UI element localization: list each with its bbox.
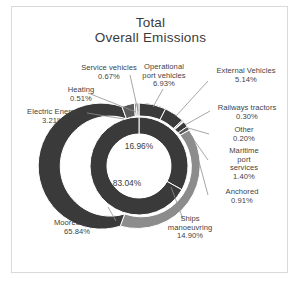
annotation-other-value: 0.20% — [215, 135, 273, 144]
annotation-electric-energy-value: 3.21% — [18, 117, 88, 126]
annotation-railways-tractors-value: 0.30% — [207, 113, 287, 122]
annotation-heating-value: 0.51% — [50, 95, 112, 104]
annotation-maritime-port-services-value: 1.40% — [215, 173, 273, 182]
annotation-railways-tractors: Railways tractors 0.30% — [207, 104, 287, 121]
annotation-other: Other 0.20% — [215, 126, 273, 143]
annotation-external-vehicles-value: 5.14% — [207, 76, 285, 85]
annotation-heating: Heating 0.51% — [50, 86, 112, 103]
annotation-operational-port-vehicles-value: 6.93% — [133, 80, 195, 89]
inner-label-maritime: 83.04% — [97, 178, 157, 188]
annotation-anchored: Anchored 0.91% — [211, 188, 273, 205]
annotation-ships-manoeuvring: Ships manoeuvring 14.90% — [157, 215, 223, 241]
annotation-moored-ships: Moored ships 65.84% — [38, 219, 116, 236]
chart-frame: Total Overall Emissions — [11, 6, 288, 273]
annotation-ships-manoeuvring-value: 14.90% — [157, 232, 223, 241]
annotation-anchored-value: 0.91% — [211, 197, 273, 206]
annotation-maritime-port-services: Maritime port services 1.40% — [215, 147, 273, 181]
annotation-operational-port-vehicles: Operational port vehicles 6.93% — [133, 63, 195, 89]
annotation-external-vehicles: External Vehicles 5.14% — [207, 67, 285, 84]
inner-ring — [90, 117, 188, 215]
annotation-electric-energy: Electric Energy 3.21% — [18, 108, 88, 125]
leader-operational-port-vehicles — [153, 89, 163, 107]
inner-label-land-side: 16.96% — [109, 141, 169, 151]
annotation-moored-ships-value: 65.84% — [38, 228, 116, 237]
